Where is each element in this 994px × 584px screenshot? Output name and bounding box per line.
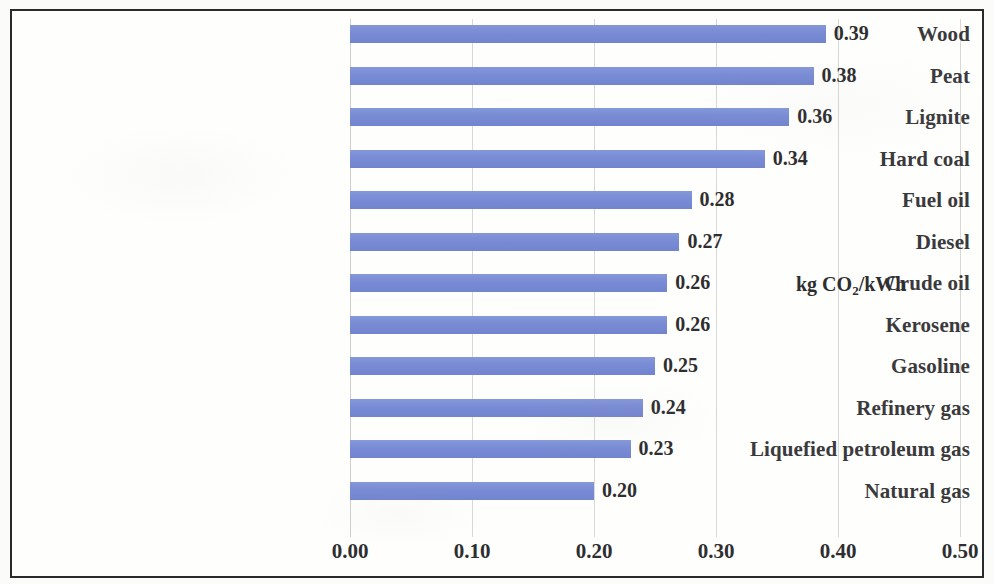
bar-track: 0.39 — [350, 23, 982, 45]
bar-value-label: 0.25 — [655, 354, 698, 376]
bar-row: Peat0.38 — [12, 65, 982, 107]
x-tick-label: 0.00 — [332, 536, 369, 566]
bar-row: Kerosene0.26 — [12, 314, 982, 356]
bar-row: Diesel0.27 — [12, 231, 982, 273]
bar-track: 0.28 — [350, 189, 982, 211]
chart-frame: Wood0.39Peat0.38Lignite0.36Hard coal0.34… — [10, 9, 984, 578]
bar-track: 0.25 — [350, 355, 982, 377]
bar[interactable] — [350, 233, 679, 251]
bar-value-label: 0.39 — [826, 22, 869, 44]
bar[interactable] — [350, 25, 826, 43]
x-tick-label: 0.10 — [454, 536, 491, 566]
bar-track: 0.34 — [350, 148, 982, 170]
bar-track: 0.26 — [350, 314, 982, 336]
unit-axis-label: kg CO2/kWh — [796, 273, 906, 295]
bar[interactable] — [350, 357, 655, 375]
x-tick-label: 0.50 — [942, 536, 979, 566]
bar-track: 0.24 — [350, 397, 982, 419]
bar-value-label: 0.26 — [667, 313, 710, 335]
unit-label-suffix: /kWh — [859, 273, 907, 295]
bar-value-label: 0.36 — [789, 105, 832, 127]
bar[interactable] — [350, 108, 789, 126]
bar[interactable] — [350, 316, 667, 334]
x-tick-label: 0.20 — [576, 536, 613, 566]
unit-label-subscript: 2 — [852, 283, 859, 298]
bar-value-label: 0.26 — [667, 271, 710, 293]
bar-row: Wood0.39 — [12, 23, 982, 65]
bar-value-label: 0.28 — [692, 188, 735, 210]
bar-track: 0.38 — [350, 65, 982, 87]
bar-value-label: 0.20 — [594, 479, 637, 501]
bar-track: 0.27 — [350, 231, 982, 253]
bar-row: Gasoline0.25 — [12, 355, 982, 397]
bar-track: 0.23 — [350, 438, 982, 460]
bar-track: 0.20 — [350, 480, 982, 502]
bar[interactable] — [350, 440, 631, 458]
unit-label-prefix: kg CO — [796, 273, 852, 295]
x-tick-label: 0.30 — [698, 536, 735, 566]
bar-value-label: 0.34 — [765, 147, 808, 169]
bar-row: Liquefied petroleum gas0.23 — [12, 438, 982, 480]
bar[interactable] — [350, 67, 814, 85]
bar-value-label: 0.38 — [814, 64, 857, 86]
bar[interactable] — [350, 191, 692, 209]
bar-row: Hard coal0.34 — [12, 148, 982, 190]
bar-value-label: 0.24 — [643, 396, 686, 418]
bar-row: Natural gas0.20 — [12, 480, 982, 522]
bar-row: Lignite0.36 — [12, 106, 982, 148]
x-axis: 0.000.100.200.300.400.50 — [12, 536, 982, 572]
bar[interactable] — [350, 482, 594, 500]
plot-area: Wood0.39Peat0.38Lignite0.36Hard coal0.34… — [12, 11, 982, 576]
scanned-page: Wood0.39Peat0.38Lignite0.36Hard coal0.34… — [0, 0, 994, 584]
bar[interactable] — [350, 150, 765, 168]
bar-track: 0.36 — [350, 106, 982, 128]
bar-value-label: 0.23 — [631, 437, 674, 459]
bar[interactable] — [350, 274, 667, 292]
bar-row: Fuel oil0.28 — [12, 189, 982, 231]
bar-row: Refinery gas0.24 — [12, 397, 982, 439]
bar-value-label: 0.27 — [679, 230, 722, 252]
bar[interactable] — [350, 399, 643, 417]
x-tick-label: 0.40 — [820, 536, 857, 566]
